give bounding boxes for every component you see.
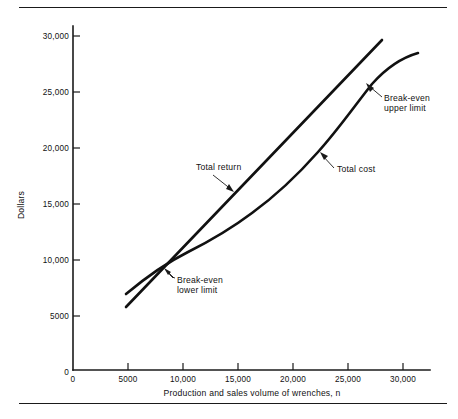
x-axis-tick-labels: 0 5000 10,000 15,000 20,000 25,000 30,00…	[71, 375, 417, 384]
x-ticklabel-5000: 5000	[118, 375, 137, 384]
y-axis-ticks	[73, 36, 80, 316]
annotation-breakeven-lower-line2: lower limit	[177, 285, 218, 295]
annotations: Total return Total cost Break-even lower…	[164, 83, 430, 295]
figure-container: 30,000 25,000 20,000 15,000 10,000 5000 …	[0, 0, 458, 419]
annotation-breakeven-lower-line1: Break-even	[177, 275, 223, 285]
x-axis-title: Production and sales volume of wrenches,…	[163, 388, 340, 398]
y-ticklabel-20000: 20,000	[43, 144, 69, 153]
annotation-total-cost-arrowhead	[320, 152, 328, 160]
y-ticklabel-15000: 15,000	[43, 200, 69, 209]
annotation-breakeven-upper-line1: Break-even	[384, 93, 430, 103]
y-axis-title: Dollars	[16, 191, 26, 219]
y-axis-tick-labels: 30,000 25,000 20,000 15,000 10,000 5000 …	[43, 32, 69, 377]
x-ticklabel-30000: 30,000	[390, 375, 416, 384]
y-ticklabel-10000: 10,000	[43, 256, 69, 265]
x-ticklabel-15000: 15,000	[225, 375, 251, 384]
break-even-chart: 30,000 25,000 20,000 15,000 10,000 5000 …	[0, 0, 458, 419]
annotation-breakeven-upper-line2: upper limit	[384, 103, 426, 113]
x-ticklabel-25000: 25,000	[335, 375, 361, 384]
y-ticklabel-30000: 30,000	[43, 32, 69, 41]
annotation-total-return-arrowhead	[226, 184, 234, 192]
annotation-total-cost-label: Total cost	[337, 164, 376, 174]
x-axis-ticks	[128, 363, 403, 370]
y-ticklabel-0: 0	[64, 368, 69, 377]
y-ticklabel-5000: 5000	[50, 312, 69, 321]
annotation-total-return-label: Total return	[196, 162, 241, 172]
x-ticklabel-0: 0	[71, 375, 76, 384]
y-ticklabel-25000: 25,000	[43, 88, 69, 97]
x-ticklabel-20000: 20,000	[280, 375, 306, 384]
x-ticklabel-10000: 10,000	[170, 375, 196, 384]
